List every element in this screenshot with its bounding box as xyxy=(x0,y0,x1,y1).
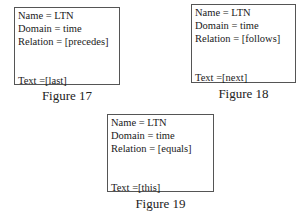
spacer xyxy=(195,45,292,71)
relation-line: Relation = [precedes] xyxy=(18,35,116,48)
spacer xyxy=(111,155,210,181)
spacer xyxy=(18,48,116,74)
text-line: Text =[this] xyxy=(111,181,210,194)
figure-19-box: Name = LTN Domain = time Relation = [equ… xyxy=(107,114,214,192)
name-line: Name = LTN xyxy=(195,6,292,19)
text-line: Text =[last] xyxy=(18,74,116,87)
domain-line: Domain = time xyxy=(195,19,292,32)
figure-19-caption: Figure 19 xyxy=(107,196,214,212)
name-line: Name = LTN xyxy=(18,9,116,22)
domain-line: Domain = time xyxy=(18,22,116,35)
domain-line: Domain = time xyxy=(111,129,210,142)
relation-line: Relation = [follows] xyxy=(195,32,292,45)
figure-17-box: Name = LTN Domain = time Relation = [pre… xyxy=(14,7,120,85)
relation-line: Relation = [equals] xyxy=(111,142,210,155)
text-line: Text =[next] xyxy=(195,71,292,84)
name-line: Name = LTN xyxy=(111,116,210,129)
figure-17-caption: Figure 17 xyxy=(14,88,120,104)
figure-18-caption: Figure 18 xyxy=(191,86,296,102)
figure-18-box: Name = LTN Domain = time Relation = [fol… xyxy=(191,4,296,83)
